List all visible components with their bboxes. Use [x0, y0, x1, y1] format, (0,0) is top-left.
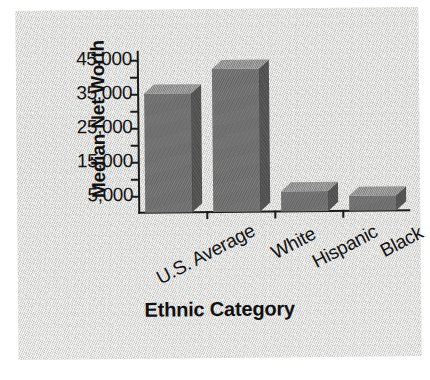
bar-series	[137, 48, 409, 51]
y-axis-ticks	[137, 48, 409, 51]
bar-white[interactable]	[211, 68, 259, 212]
y-axis-tick-label: 5,000	[41, 184, 133, 207]
y-axis-tick-mark	[131, 162, 139, 164]
y-axis-tick-mark	[130, 59, 138, 61]
bar-front-face	[349, 195, 397, 211]
bar-front-face	[211, 68, 260, 212]
bar-hispanic[interactable]	[281, 191, 328, 212]
y-axis-tick-mark	[131, 196, 139, 198]
y-axis-tick-mark	[131, 179, 139, 181]
x-axis-tick-mark	[206, 211, 208, 219]
y-axis-tick-mark	[130, 76, 138, 78]
bar-front-face	[144, 93, 193, 213]
y-axis-tick-mark	[130, 128, 138, 130]
y-axis-tick-label: 45,000	[40, 47, 132, 70]
x-axis-tick-mark	[274, 210, 276, 218]
bar-u-s-average[interactable]	[144, 93, 192, 213]
y-axis-tick-mark	[130, 110, 138, 112]
bar-front-face	[281, 190, 329, 211]
bar-top-face	[281, 181, 338, 191]
x-axis-category-label: Hispanic	[309, 221, 382, 273]
bar-black[interactable]	[349, 195, 396, 211]
bar-top-face	[211, 59, 268, 69]
x-axis-tick-mark	[342, 210, 344, 218]
y-axis-line	[137, 51, 141, 214]
x-axis-title: Ethnic Category	[18, 296, 421, 323]
bar-chart: Median Net Worth 45,00035,00025,00015,00…	[15, 7, 421, 360]
y-axis-tick-mark	[131, 145, 139, 147]
x-axis-category-label: Black	[377, 221, 427, 261]
y-axis-tick-label: 15,000	[41, 150, 133, 173]
bar-top-face	[144, 84, 201, 94]
x-axis-category-label: U.S. Average	[152, 220, 258, 289]
x-axis-ticks	[137, 48, 409, 51]
y-axis-tick-label: 35,000	[40, 81, 132, 104]
plot-area	[137, 48, 411, 213]
y-axis-tick-mark	[130, 93, 138, 95]
y-axis-tick-label: 25,000	[40, 116, 132, 139]
bar-top-face	[349, 186, 406, 196]
